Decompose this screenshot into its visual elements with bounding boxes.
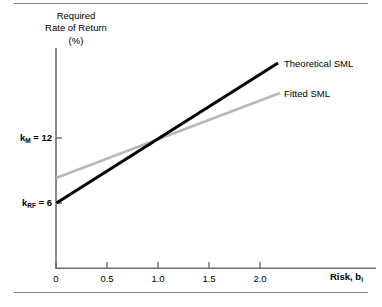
km-subscript: M	[25, 137, 30, 144]
series-label-fitted-sml: Fitted SML	[284, 88, 330, 100]
x-axis-title-text: Risk, b	[330, 271, 361, 282]
series-label-theoretical-sml: Theoretical SML	[284, 58, 353, 70]
krf-value: = 6	[39, 197, 52, 208]
x-tick-label-1-5: 1.5	[194, 273, 224, 285]
x-tick-label-0: 0	[41, 273, 71, 285]
krf-subscript: RF	[27, 202, 36, 209]
theoretical-sml-line	[57, 63, 279, 203]
x-axis-title: Risk, bi	[330, 271, 363, 283]
y-axis-title-line-3: (%)	[20, 35, 132, 47]
figure-container: Required Rate of Return (%) kM = 12 kRF …	[0, 0, 382, 307]
y-tick-label-km: kM = 12	[6, 132, 52, 144]
x-axis-title-subscript: i	[361, 276, 363, 283]
y-axis-title-line-2: Rate of Return	[20, 22, 132, 34]
x-tick-label-1-0: 1.0	[143, 273, 173, 285]
y-axis-title-line-1: Required	[20, 10, 132, 22]
fitted-sml-line	[56, 93, 280, 178]
x-tick-label-2-0: 2.0	[245, 273, 275, 285]
y-tick-label-krf: kRF = 6	[6, 197, 52, 209]
km-value: = 12	[33, 132, 52, 143]
x-tick-label-0-5: 0.5	[92, 273, 122, 285]
y-axis-title: Required Rate of Return (%)	[20, 10, 132, 47]
